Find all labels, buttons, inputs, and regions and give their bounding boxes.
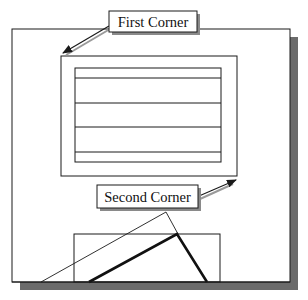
first-corner-label: First Corner	[118, 14, 189, 30]
viewport-frame-border	[12, 29, 290, 282]
window-selection-diagram: First Corner Second Corner	[0, 0, 308, 300]
second-corner-label: Second Corner	[104, 189, 191, 205]
